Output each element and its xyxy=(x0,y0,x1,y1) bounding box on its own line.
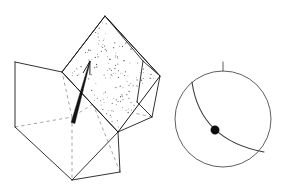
stipple-dot xyxy=(109,68,110,69)
stipple-dot xyxy=(105,49,106,50)
stipple-dot xyxy=(102,47,103,48)
stipple-dot xyxy=(99,40,100,41)
slip-lineation-point xyxy=(211,126,219,134)
stipple-dot xyxy=(85,52,86,53)
stipple-dot xyxy=(104,75,105,76)
stipple-dot xyxy=(141,79,142,80)
stipple-dot xyxy=(128,112,129,113)
stipple-dot xyxy=(110,77,111,78)
stipple-dot xyxy=(122,96,123,97)
stipple-dot xyxy=(109,59,110,60)
stipple-dot xyxy=(122,46,123,47)
stipple-dot xyxy=(115,56,116,57)
figure-root: Left: an isometric line-drawing block di… xyxy=(0,0,287,196)
stipple-dot xyxy=(74,71,75,72)
stipple-dot xyxy=(119,46,120,47)
stipple-dot xyxy=(117,58,118,59)
stipple-dot xyxy=(120,101,121,102)
primitive-circle xyxy=(175,71,271,167)
stipple-dot xyxy=(115,53,116,54)
stipple-dot xyxy=(101,51,102,52)
stipple-dot xyxy=(124,75,125,76)
stipple-dot xyxy=(87,52,88,53)
stipple-dot xyxy=(95,83,96,84)
stipple-dot xyxy=(80,66,81,67)
stipple-dot xyxy=(90,50,91,51)
stipple-dot xyxy=(72,72,73,73)
stipple-dot xyxy=(117,63,118,64)
stipple-dot xyxy=(136,77,137,78)
stipple-dot xyxy=(99,28,100,29)
stipple-dot xyxy=(125,71,126,72)
stipple-dot xyxy=(129,85,130,86)
stipple-dot xyxy=(88,60,89,61)
stipple-dot xyxy=(118,126,119,127)
stipple-dot xyxy=(98,33,99,34)
stipple-dot xyxy=(102,44,103,45)
stipple-dot xyxy=(98,37,99,38)
stipple-dot xyxy=(105,33,106,34)
stipple-dot xyxy=(118,101,119,102)
stipple-dot xyxy=(94,67,95,68)
stipple-dot xyxy=(115,55,116,56)
stipple-dot xyxy=(96,64,97,65)
stipple-dot xyxy=(115,87,116,88)
stipple-dot xyxy=(141,80,142,81)
stipple-dot xyxy=(122,73,123,74)
stipple-dot xyxy=(88,49,89,50)
stipple-dot xyxy=(105,92,106,93)
stipple-dot xyxy=(112,121,113,122)
stipple-dot xyxy=(143,69,144,70)
stipple-dot xyxy=(107,56,108,57)
stipple-dot xyxy=(125,42,126,43)
stipple-dot xyxy=(120,73,121,74)
stipple-dot xyxy=(127,81,128,82)
stipple-dot xyxy=(150,78,151,79)
stipple-dot xyxy=(121,94,122,95)
stipple-dot xyxy=(124,60,125,61)
stipple-dot xyxy=(114,68,115,69)
stipple-dot xyxy=(128,109,129,110)
stipple-dot xyxy=(91,90,92,91)
stipple-dot xyxy=(96,66,97,67)
stipple-dot xyxy=(126,94,127,95)
stipple-dot xyxy=(117,56,118,57)
stipple-dot xyxy=(101,46,102,47)
stipple-dot xyxy=(116,73,117,74)
stipple-dot xyxy=(143,72,144,73)
stipple-dot xyxy=(106,23,107,24)
stipple-dot xyxy=(95,57,96,58)
stipple-dot xyxy=(94,94,95,95)
fault-block-diagram xyxy=(15,16,160,180)
stipple-dot xyxy=(115,65,116,66)
stipple-dot xyxy=(130,83,131,84)
stipple-dot xyxy=(129,63,130,64)
stipple-dot xyxy=(114,42,115,43)
stipple-dot xyxy=(104,102,105,103)
stipple-dot xyxy=(133,105,134,106)
stipple-dot xyxy=(111,74,112,75)
stipple-dot xyxy=(136,85,137,86)
stipple-dot xyxy=(131,102,132,103)
stipple-dot xyxy=(113,98,114,99)
stipple-dot xyxy=(107,70,108,71)
stipple-dot xyxy=(76,69,77,70)
stipple-dot xyxy=(137,86,138,87)
stipple-dot xyxy=(123,99,124,100)
stipple-dot xyxy=(103,93,104,94)
stipple-dot xyxy=(133,85,134,86)
stipple-dot xyxy=(143,78,144,79)
stipple-dot xyxy=(106,113,107,114)
stipple-dot xyxy=(91,59,92,60)
stipple-dot xyxy=(101,105,102,106)
stipple-dot xyxy=(88,78,89,79)
stipple-dot xyxy=(120,86,121,87)
stipple-dot xyxy=(112,75,113,76)
stipple-dot xyxy=(137,79,138,80)
stipple-dot xyxy=(72,75,73,76)
stipple-dot xyxy=(142,83,143,84)
stipple-dot xyxy=(79,74,80,75)
stipple-dot xyxy=(140,72,141,73)
stipple-dot xyxy=(131,110,132,111)
stipple-dot xyxy=(117,120,118,121)
